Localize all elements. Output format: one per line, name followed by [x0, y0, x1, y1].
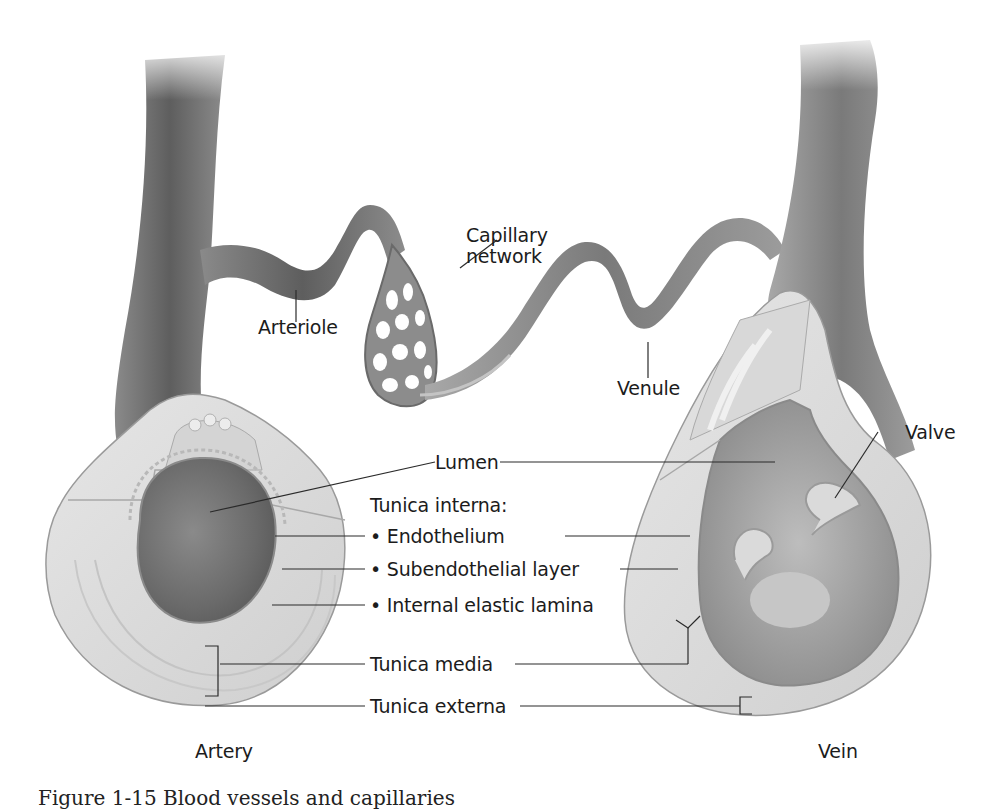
label-arteriole: Arteriole	[258, 316, 338, 338]
label-tunica-media: Tunica media	[370, 653, 493, 675]
label-valve: Valve	[905, 421, 955, 443]
label-tunica-interna: Tunica interna:	[370, 494, 507, 516]
label-tunica-externa: Tunica externa	[370, 695, 506, 717]
label-internal-elastic-lamina: • Internal elastic lamina	[370, 594, 594, 616]
label-subendothelial-layer: • Subendothelial layer	[370, 558, 579, 580]
label-venule: Venule	[617, 377, 680, 399]
artery-trunk	[115, 40, 405, 450]
label-lumen: Lumen	[435, 451, 499, 473]
artery-cross-section	[46, 394, 345, 705]
vein-cross-section	[624, 291, 930, 716]
label-artery: Artery	[195, 740, 253, 762]
capillary-network	[365, 245, 436, 406]
label-capillary: Capillary	[466, 225, 548, 246]
label-network: network	[466, 246, 548, 267]
label-vein: Vein	[818, 740, 858, 762]
figure-caption: Figure 1-15 Blood vessels and capillarie…	[38, 786, 455, 810]
label-capillary-network: Capillary network	[466, 225, 548, 267]
label-endothelium: • Endothelium	[370, 525, 505, 547]
